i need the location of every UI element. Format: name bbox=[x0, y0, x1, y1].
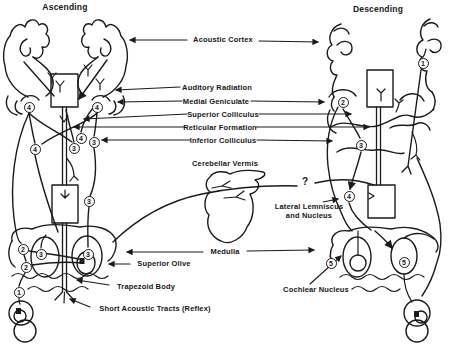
neuron-order-marker: 4 bbox=[30, 144, 41, 155]
cerebellar-vermis-shape bbox=[205, 170, 265, 242]
neuron-order-marker: 4 bbox=[92, 102, 103, 113]
neuron-order-marker: 3 bbox=[84, 196, 95, 207]
label-cerebellar-vermis: Cerebellar Vermis bbox=[192, 159, 258, 168]
neuron-order-marker: 3 bbox=[356, 140, 367, 151]
label-lateral-lemniscus: Lateral Lemniscus and Nucleus bbox=[275, 202, 343, 220]
label-superior-colliculus: Superior Colliculus bbox=[187, 110, 259, 119]
neuron-order-marker: 3 bbox=[36, 249, 47, 260]
title-ascending: Ascending bbox=[42, 3, 87, 12]
label-acoustic-cortex: Acoustic Cortex bbox=[193, 35, 253, 44]
label-short-acoustic-tracts: Short Acoustic Tracts (Reflex) bbox=[99, 304, 210, 313]
neuron-order-marker: 2 bbox=[21, 262, 32, 273]
neuron-order-marker: 4 bbox=[76, 133, 87, 144]
neuron-order-marker: 2 bbox=[18, 244, 29, 255]
label-reticular-formation: Reticular Formation bbox=[183, 123, 257, 132]
neuron-order-marker: 4 bbox=[24, 102, 35, 113]
label-inferior-colliculus: Inferior Colliculus bbox=[190, 136, 257, 145]
label-trapezoid-body: Trapezoid Body bbox=[117, 282, 175, 291]
neuron-order-marker: 4 bbox=[344, 191, 355, 202]
label-superior-olive: Superior Olive bbox=[137, 259, 190, 268]
label-medulla: Medulla bbox=[211, 247, 240, 256]
label-medial-geniculate: Medial Geniculate bbox=[183, 97, 249, 106]
neuron-order-marker: 3 bbox=[83, 249, 94, 260]
label-uncertain-pathway: ? bbox=[302, 177, 308, 186]
label-auditory-radiation: Auditory Radiation bbox=[182, 83, 252, 92]
neuron-order-marker: 2 bbox=[338, 97, 349, 108]
label-lateral-lemniscus-line1: Lateral Lemniscus bbox=[275, 202, 343, 211]
neuron-order-marker: 1 bbox=[418, 58, 429, 69]
neuron-order-marker: 3 bbox=[89, 137, 100, 148]
diagram-line-art bbox=[0, 0, 449, 351]
label-cochlear-nucleus: Cochlear Nucleus bbox=[283, 285, 349, 294]
neuron-order-marker: 5 bbox=[399, 257, 410, 268]
neuron-order-marker: 1 bbox=[14, 287, 25, 298]
leader-lines bbox=[70, 40, 369, 307]
label-lateral-lemniscus-line2: and Nucleus bbox=[275, 211, 343, 220]
neuron-order-marker: 3 bbox=[69, 143, 80, 154]
title-descending: Descending bbox=[353, 5, 403, 14]
neuron-order-marker: 5 bbox=[326, 258, 337, 269]
auditory-pathways-diagram: Ascending Descending Acoustic Cortex Aud… bbox=[0, 0, 449, 351]
